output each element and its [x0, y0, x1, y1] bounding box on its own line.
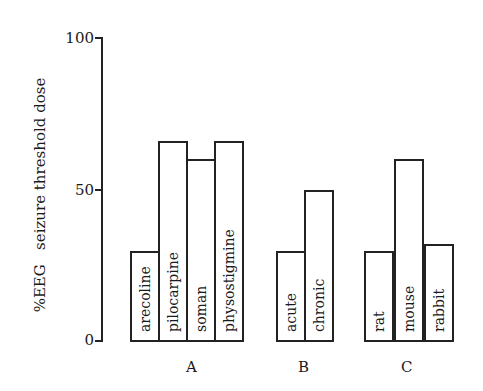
y-tick-label-0: 0	[54, 331, 94, 349]
y-tick-0	[95, 340, 102, 342]
bar-label: chronic	[311, 279, 327, 332]
bar-acute: acute	[276, 251, 306, 343]
bar-physostigmine: physostigmine	[214, 141, 244, 342]
bar-label: rabbit	[431, 289, 447, 332]
group-label-a: A	[186, 358, 197, 376]
y-tick-100	[95, 37, 102, 39]
bar-label: soman	[193, 286, 209, 332]
bar-rat: rat	[364, 251, 394, 343]
group-label-c: C	[401, 358, 412, 376]
bar-soman: soman	[186, 159, 216, 342]
y-tick-label-50: 50	[54, 181, 94, 199]
bar-label: physostigmine	[221, 229, 237, 332]
bar-rabbit: rabbit	[424, 244, 454, 342]
y-tick-50	[95, 189, 102, 191]
bar-label: pilocarpine	[165, 252, 181, 332]
bar-chronic: chronic	[304, 190, 334, 343]
bar-label: rat	[371, 311, 387, 332]
bar-pilocarpine: pilocarpine	[158, 141, 188, 342]
bar-arecoline: arecoline	[130, 251, 160, 343]
group-label-b: B	[298, 358, 309, 376]
bar-label: arecoline	[137, 266, 153, 332]
bar-mouse: mouse	[394, 159, 424, 342]
bar-label: acute	[283, 293, 299, 332]
y-axis-label: %EEG seizure threshold dose	[31, 78, 49, 313]
bar-chart: %EEG seizure threshold dose 100 50 0 are…	[0, 0, 483, 391]
y-tick-label-100: 100	[54, 29, 94, 47]
bar-label: mouse	[401, 286, 417, 332]
